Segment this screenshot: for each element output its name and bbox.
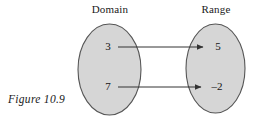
domain-set-ellipse [78,24,141,115]
domain-element-3: 3 [100,40,116,52]
figure-caption: Figure 10.9 [8,93,65,105]
range-element-5: 5 [210,40,226,52]
figure-container: Domain Range 3 7 5 –2 Figure 10.9 [0,0,258,123]
domain-element-7: 7 [100,80,116,92]
range-element-neg2: –2 [206,80,228,92]
range-set-ellipse [186,24,245,113]
